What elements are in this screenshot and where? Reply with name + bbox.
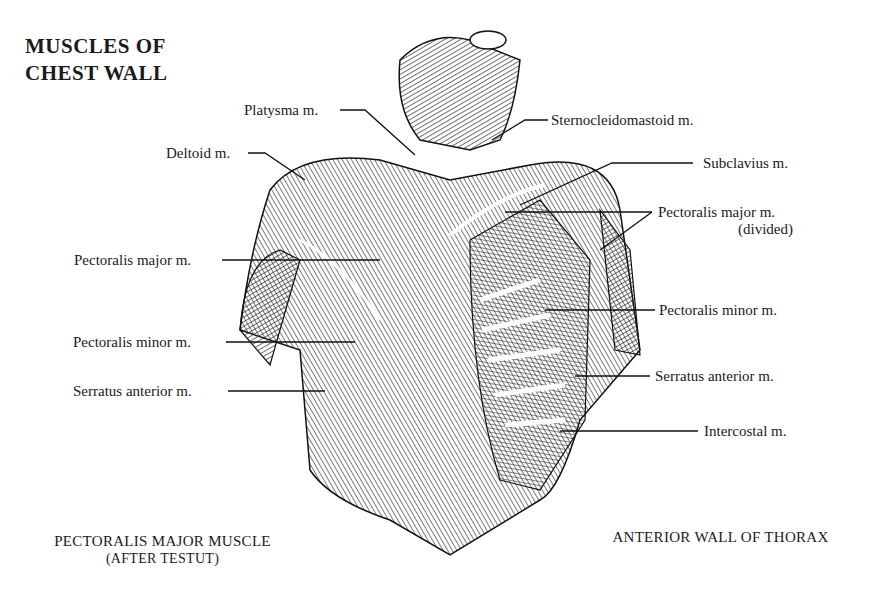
caption-right: ANTERIOR WALL OF THORAX <box>578 528 863 546</box>
label-serratus-anterior-left: Serratus anterior m. <box>73 382 192 400</box>
label-pectoralis-major-divided: (divided) <box>738 220 793 238</box>
caption-left-line-2: (AFTER TESTUT) <box>25 550 300 568</box>
label-pectoralis-minor-left: Pectoralis minor m. <box>73 333 191 351</box>
label-sternocleidomastoid: Sternocleidomastoid m. <box>551 111 693 129</box>
label-pectoralis-major-right: Pectoralis major m. <box>658 203 775 221</box>
label-deltoid: Deltoid m. <box>166 144 230 162</box>
label-subclavius: Subclavius m. <box>703 154 788 172</box>
torso-illustration <box>0 0 885 594</box>
caption-left: PECTORALIS MAJOR MUSCLE (AFTER TESTUT) <box>25 532 300 568</box>
label-serratus-anterior-right: Serratus anterior m. <box>655 367 774 385</box>
label-platysma: Platysma m. <box>244 101 318 119</box>
caption-left-line-1: PECTORALIS MAJOR MUSCLE <box>25 532 300 550</box>
label-intercostal: Intercostal m. <box>704 422 786 440</box>
label-pectoralis-minor-right: Pectoralis minor m. <box>659 301 777 319</box>
label-pectoralis-major-left: Pectoralis major m. <box>74 251 191 269</box>
